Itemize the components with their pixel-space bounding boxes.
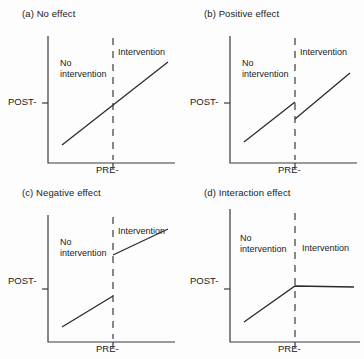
panel-a-trend-line bbox=[62, 62, 168, 145]
panel-c-post-line bbox=[113, 229, 168, 255]
panel-b-post-line bbox=[295, 73, 350, 119]
panel-a-plot bbox=[0, 0, 182, 179]
panel-b: (b) Positive effect POST- PRE- No interv… bbox=[182, 0, 364, 179]
panel-c-plot bbox=[0, 179, 182, 358]
panel-c-pre-line bbox=[62, 296, 113, 327]
panel-d: (d) Interaction effect POST- PRE- No int… bbox=[182, 179, 364, 358]
panel-a-axes bbox=[48, 36, 175, 163]
panel-b-pre-line bbox=[244, 102, 295, 142]
intervention-effects-figure: (a) No effect POST- PRE- No intervention… bbox=[0, 0, 364, 359]
panel-d-trend-line bbox=[244, 286, 354, 322]
panel-b-plot bbox=[182, 0, 364, 179]
panel-d-plot bbox=[182, 179, 364, 358]
panel-b-axes bbox=[230, 36, 357, 163]
panel-c: (c) Negative effect POST- PRE- No interv… bbox=[0, 179, 182, 358]
panel-a: (a) No effect POST- PRE- No intervention… bbox=[0, 0, 182, 179]
